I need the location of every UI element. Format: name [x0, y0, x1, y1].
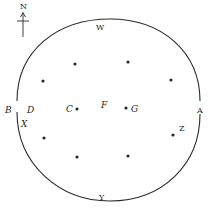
label-d: D: [26, 105, 34, 115]
label-f: F: [100, 100, 108, 110]
point-dot: [171, 133, 174, 136]
point-dot: [73, 62, 76, 65]
label-c: C: [66, 104, 73, 114]
point-dot: [75, 155, 78, 158]
circle-lower-arc: [17, 112, 200, 201]
point-dot: [124, 106, 127, 109]
label-w: W: [96, 23, 105, 32]
point-dot: [41, 79, 44, 82]
point-dot: [169, 78, 172, 81]
north-arrow-icon: [17, 13, 29, 38]
label-a: A: [196, 106, 203, 115]
circle-diagram: N W Y A B D X Z C F G: [0, 0, 210, 208]
label-z: Z: [179, 124, 185, 133]
point-dot: [75, 107, 78, 110]
circle-upper-arc: [17, 19, 200, 101]
point-dot: [126, 60, 129, 63]
label-x: X: [20, 119, 28, 129]
label-b: B: [4, 105, 12, 115]
north-label: N: [20, 2, 27, 11]
point-dot: [42, 136, 45, 139]
label-g: G: [131, 104, 138, 114]
point-group: [41, 60, 174, 158]
label-y: Y: [98, 193, 105, 202]
point-dot: [126, 154, 129, 157]
